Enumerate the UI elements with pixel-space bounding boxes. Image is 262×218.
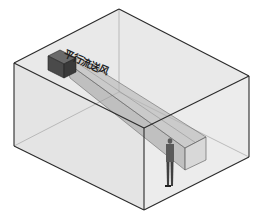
person-shoes	[165, 185, 171, 187]
person-left-leg	[167, 162, 170, 186]
person-torso	[166, 144, 174, 162]
person-right-leg	[171, 162, 174, 186]
room-air-supply-diagram	[0, 0, 262, 218]
person-head	[168, 138, 173, 144]
